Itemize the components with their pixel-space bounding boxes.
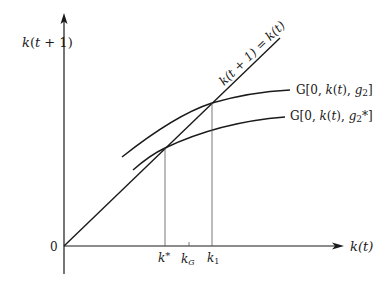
- x-axis-label: k(t): [350, 239, 373, 254]
- tick-label-k-1: k1: [207, 251, 219, 266]
- tick-label-k-star: k*: [158, 250, 170, 265]
- curve-lower: [133, 117, 285, 170]
- origin-label: 0: [50, 240, 58, 254]
- curve-lower-label: G[0, k(t), g2*]: [290, 109, 373, 124]
- phase-diagram: k(t + 1) 0 k(t) k(t + 1) = k(t) G[0, k(t…: [0, 0, 385, 281]
- curve-upper: [122, 90, 290, 157]
- diagonal-label: k(t + 1) = k(t): [216, 18, 288, 88]
- diagonal-line: [64, 38, 280, 246]
- curve-upper-label: G[0, k(t), g2]: [296, 83, 373, 98]
- tick-label-k-G: kG: [181, 252, 195, 267]
- y-axis-label: k(t + 1): [22, 35, 73, 50]
